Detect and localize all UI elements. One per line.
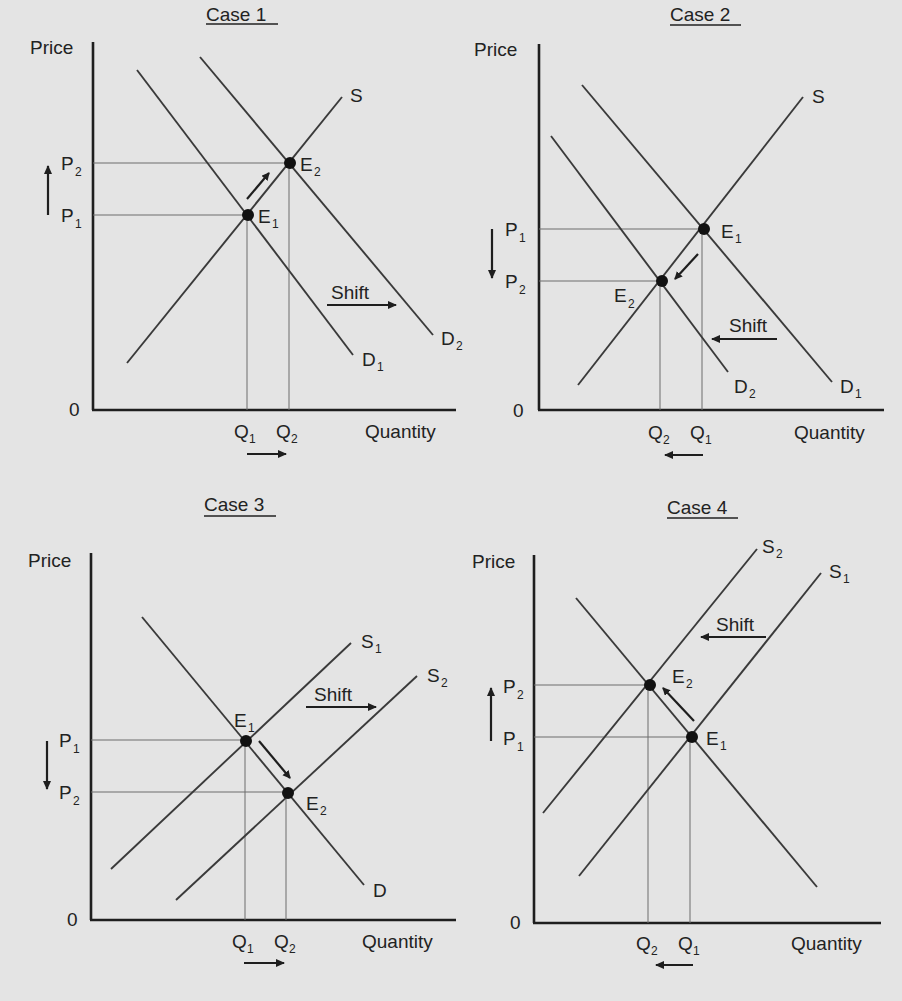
case-2-diagram: Case 2 Price 0 Quantity S D 1 D 2 P 1 P …: [474, 4, 884, 455]
case-2-title: Case 2: [670, 4, 730, 25]
case-4-movement-arrow-icon: [663, 688, 694, 721]
case-4-p2-label: P 2: [503, 676, 524, 702]
case-1-quantity-label: Quantity: [365, 421, 436, 442]
case-2-shift-label: Shift: [729, 315, 768, 336]
svg-text:P: P: [503, 676, 516, 697]
svg-text:E: E: [706, 728, 719, 749]
case-3-movement-arrow-icon: [259, 741, 290, 778]
svg-text:1: 1: [855, 387, 862, 401]
case-1-movement-arrow-icon: [247, 173, 269, 199]
svg-text:E: E: [234, 710, 247, 731]
case-3-p1-label: P 1: [59, 730, 80, 756]
svg-text:S: S: [427, 665, 440, 686]
case-3-p2-label: P 2: [59, 782, 80, 808]
svg-text:1: 1: [375, 642, 382, 656]
case-1-supply-curve: [127, 97, 342, 363]
svg-text:1: 1: [75, 217, 82, 231]
case-4-s2-label: S 2: [762, 536, 783, 561]
svg-text:D: D: [441, 328, 455, 349]
case-2-equilibrium-e1: [698, 223, 710, 235]
case-3-supply-curve-s1: [111, 643, 351, 869]
case-3-supply-curve-s2: [176, 676, 417, 900]
case-3-shift-label: Shift: [314, 684, 353, 705]
svg-text:2: 2: [663, 433, 670, 447]
svg-text:2: 2: [517, 688, 524, 702]
svg-text:Q: Q: [648, 422, 663, 443]
svg-text:E: E: [300, 154, 313, 175]
svg-text:1: 1: [705, 433, 712, 447]
case-2-p1-label: P 1: [505, 219, 526, 245]
case-3-quantity-label: Quantity: [362, 931, 433, 952]
svg-text:E: E: [258, 206, 271, 227]
svg-text:2: 2: [519, 283, 526, 297]
case-4-shift-label: Shift: [716, 614, 755, 635]
case-3-q2-label: Q 2: [274, 931, 296, 956]
case-2-equilibrium-e2: [656, 275, 668, 287]
svg-text:2: 2: [441, 676, 448, 690]
svg-text:Q: Q: [690, 422, 705, 443]
case-1-equilibrium-e2: [284, 157, 296, 169]
svg-text:1: 1: [249, 432, 256, 446]
case-1-demand-curve-d2: [200, 57, 433, 335]
svg-text:2: 2: [749, 387, 756, 401]
case-1-e1-label: E 1: [258, 206, 279, 231]
case-4-p1-label: P 1: [503, 728, 524, 754]
case-1-q1-label: Q 1: [234, 421, 256, 446]
case-1-diagram: Case 1 Price 0 Quantity S D 1 D 2 P 2: [30, 4, 463, 454]
case-2-p2-label: P 2: [505, 271, 526, 297]
svg-text:P: P: [503, 728, 516, 749]
svg-text:1: 1: [73, 742, 80, 756]
case-1-shift-label: Shift: [331, 282, 370, 303]
case-2-q1-label: Q 1: [690, 422, 712, 447]
case-1-price-label: Price: [30, 37, 73, 58]
case-4-diagram: Case 4 Price 0 Quantity S 2 S 1 P 2 P 1: [472, 497, 881, 965]
svg-text:2: 2: [628, 297, 635, 311]
svg-text:D: D: [840, 376, 854, 397]
case-1-p2-label: P 2: [61, 153, 82, 179]
svg-text:1: 1: [735, 232, 742, 246]
svg-text:2: 2: [456, 339, 463, 353]
case-3-equilibrium-e2: [282, 787, 294, 799]
case-1-p1-label: P 1: [61, 205, 82, 231]
svg-text:S: S: [361, 631, 374, 652]
svg-text:2: 2: [73, 794, 80, 808]
case-4-q2-label: Q 2: [636, 933, 658, 958]
svg-text:P: P: [59, 730, 72, 751]
case-1-title: Case 1: [206, 4, 266, 25]
case-1-q2-label: Q 2: [276, 421, 298, 446]
case-4-quantity-label: Quantity: [791, 933, 862, 954]
svg-text:2: 2: [289, 942, 296, 956]
svg-text:Q: Q: [636, 933, 651, 954]
svg-text:E: E: [672, 666, 685, 687]
case-3-s2-label: S 2: [427, 665, 448, 690]
case-3-demand-curve: [142, 617, 364, 885]
svg-text:2: 2: [686, 677, 693, 691]
case-4-equilibrium-e2: [644, 679, 656, 691]
svg-text:1: 1: [377, 360, 384, 374]
svg-text:Q: Q: [276, 421, 291, 442]
case-4-q1-label: Q 1: [678, 933, 700, 958]
case-2-supply-curve: [578, 97, 803, 385]
case-3-title: Case 3: [204, 494, 264, 515]
svg-text:2: 2: [320, 804, 327, 818]
case-2-price-label: Price: [474, 39, 517, 60]
case-2-d2-label: D 2: [734, 376, 756, 401]
case-3-q1-label: Q 1: [232, 931, 254, 956]
svg-text:E: E: [614, 285, 627, 306]
svg-text:Q: Q: [234, 421, 249, 442]
case-1-d1-label: D 1: [362, 349, 384, 374]
svg-text:1: 1: [517, 740, 524, 754]
svg-text:2: 2: [291, 432, 298, 446]
svg-text:E: E: [721, 221, 734, 242]
case-4-s1-label: S 1: [829, 561, 850, 586]
svg-text:1: 1: [720, 739, 727, 753]
svg-text:D: D: [362, 349, 376, 370]
case-4-demand-curve: [576, 598, 817, 887]
svg-text:P: P: [61, 205, 74, 226]
case-4-equilibrium-e1: [686, 731, 698, 743]
case-4-title: Case 4: [667, 497, 728, 518]
case-1-e2-label: E 2: [300, 154, 321, 179]
svg-text:1: 1: [519, 231, 526, 245]
svg-text:E: E: [306, 793, 319, 814]
svg-text:1: 1: [843, 572, 850, 586]
